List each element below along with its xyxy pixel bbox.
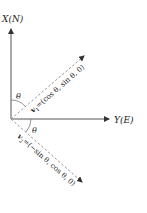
v1-expression: =(cos θ, sin θ, 0) [34, 63, 86, 110]
v2-expression: =(−sin θ, cos θ, 0) [21, 137, 77, 188]
v1-vector-line [11, 56, 84, 119]
v1-label: v1=(cos θ, sin θ, 0) [28, 63, 86, 116]
coordinate-diagram: X(N) Y(E) θ θ v1=(cos θ, sin θ, 0) v2=(−… [0, 0, 147, 213]
svg-text:v2=(−sin θ, cos θ, 0): v2=(−sin θ, cos θ, 0) [15, 132, 78, 189]
theta-bottom-label: θ [32, 126, 37, 135]
theta-bottom-arc [26, 119, 31, 132]
y-axis-label: Y(E) [114, 115, 134, 125]
v2-vector-line [11, 119, 82, 182]
svg-text:v1=(cos θ, sin θ, 0): v1=(cos θ, sin θ, 0) [28, 63, 86, 116]
x-axis-label: X(N) [1, 14, 24, 24]
theta-top-label: θ [16, 92, 21, 101]
v2-label: v2=(−sin θ, cos θ, 0) [15, 132, 78, 189]
